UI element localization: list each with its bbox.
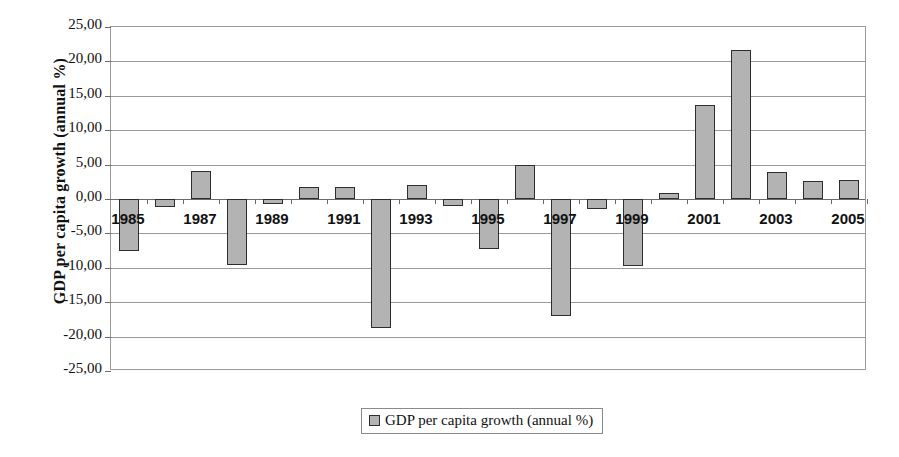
y-axis-tick-mark (105, 165, 111, 166)
x-axis-tick-label: 1985 (111, 210, 144, 227)
bar (371, 199, 391, 328)
y-axis-tick-label: -15,00 (26, 291, 102, 308)
y-axis-tick-label: -20,00 (26, 326, 102, 343)
x-axis-tick-mark (363, 199, 364, 204)
x-axis-tick-label: 1993 (399, 210, 432, 227)
x-axis-tick-label: 2005 (831, 210, 864, 227)
x-axis-tick-mark (543, 199, 544, 204)
plot-area (110, 26, 866, 370)
y-axis-tick-label: -5,00 (26, 222, 102, 239)
bar (191, 171, 211, 199)
gridline (111, 165, 865, 166)
y-axis-tick-label: 15,00 (26, 85, 102, 102)
x-axis-tick-label: 1995 (471, 210, 504, 227)
x-axis-tick-mark (183, 199, 184, 204)
x-axis-tick-mark (831, 199, 832, 204)
bar (695, 105, 715, 199)
bar (731, 50, 751, 199)
x-axis-tick-mark (147, 199, 148, 204)
y-axis-tick-mark (105, 268, 111, 269)
y-axis-tick-mark (105, 233, 111, 234)
y-axis-tick-mark (105, 130, 111, 131)
x-axis-tick-label: 1987 (183, 210, 216, 227)
x-axis-tick-label: 1997 (543, 210, 576, 227)
x-axis-tick-label: 2003 (759, 210, 792, 227)
x-axis-tick-mark (291, 199, 292, 204)
chart-container: GDP per capita growth (annual %) GDP per… (0, 0, 899, 457)
bar (407, 185, 427, 199)
x-axis-tick-mark (255, 199, 256, 204)
bar (803, 181, 823, 199)
y-axis-tick-mark (105, 61, 111, 62)
x-axis-tick-mark (579, 199, 580, 204)
y-axis-tick-mark (105, 96, 111, 97)
gridline (111, 268, 865, 269)
x-axis-tick-mark (651, 199, 652, 204)
chart-legend: GDP per capita growth (annual %) (361, 408, 603, 434)
x-axis-tick-mark (615, 199, 616, 204)
bar (839, 180, 859, 199)
y-axis-tick-mark (105, 302, 111, 303)
x-axis-tick-label: 1999 (615, 210, 648, 227)
bar (227, 199, 247, 265)
x-axis-tick-label: 1989 (255, 210, 288, 227)
bar (263, 199, 283, 204)
legend-label: GDP per capita growth (annual %) (385, 412, 593, 429)
y-axis-tick-label: -10,00 (26, 257, 102, 274)
x-axis-tick-mark (471, 199, 472, 204)
gridline (111, 96, 865, 97)
gridline (111, 61, 865, 62)
bar (515, 165, 535, 199)
bar (767, 172, 787, 199)
gridline (111, 130, 865, 131)
bar (335, 187, 355, 199)
y-axis-tick-mark (105, 371, 111, 372)
x-axis-tick-mark (507, 199, 508, 204)
gridline (111, 302, 865, 303)
x-axis-tick-label: 2001 (687, 210, 720, 227)
x-axis-tick-mark (219, 199, 220, 204)
x-axis-tick-mark (327, 199, 328, 204)
x-axis-tick-mark (759, 199, 760, 204)
gridline (111, 337, 865, 338)
y-axis-tick-mark (105, 199, 111, 200)
bar (155, 199, 175, 207)
y-axis-tick-mark (105, 27, 111, 28)
y-axis-tick-label: 25,00 (26, 16, 102, 33)
y-axis-tick-label: 20,00 (26, 50, 102, 67)
y-axis-tick-label: 0,00 (26, 188, 102, 205)
y-axis-tick-label: -25,00 (26, 360, 102, 377)
x-axis-tick-mark (795, 199, 796, 204)
bar (659, 193, 679, 199)
x-axis-tick-label: 1991 (327, 210, 360, 227)
y-axis-tick-label: 5,00 (26, 154, 102, 171)
bar (299, 187, 319, 199)
x-axis-tick-mark (435, 199, 436, 204)
bar (587, 199, 607, 209)
legend-swatch-icon (369, 415, 380, 426)
x-axis-tick-mark (399, 199, 400, 204)
y-axis-tick-mark (105, 337, 111, 338)
x-axis-tick-mark (723, 199, 724, 204)
x-axis-tick-mark (687, 199, 688, 204)
y-axis-tick-label: 10,00 (26, 119, 102, 136)
x-axis-tick-mark (867, 199, 868, 204)
bar (443, 199, 463, 206)
